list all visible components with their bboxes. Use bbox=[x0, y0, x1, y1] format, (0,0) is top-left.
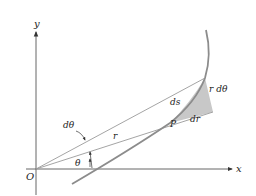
point-p-label: P bbox=[169, 119, 177, 129]
theta-label: θ bbox=[75, 158, 81, 168]
y-axis-label: y bbox=[33, 18, 40, 29]
dtheta-label: dθ bbox=[63, 120, 75, 130]
dtheta-arrow bbox=[76, 131, 85, 140]
r-label: r bbox=[113, 131, 118, 141]
dr-label: dr bbox=[190, 114, 201, 124]
origin-label: O bbox=[26, 171, 34, 182]
r-dtheta-label: r dθ bbox=[209, 84, 228, 94]
ds-label: ds bbox=[170, 97, 181, 107]
x-axis-label: x bbox=[236, 163, 242, 174]
polar-arc-length-diagram: y x O θ dθ r P ds dr r dθ bbox=[0, 0, 256, 196]
